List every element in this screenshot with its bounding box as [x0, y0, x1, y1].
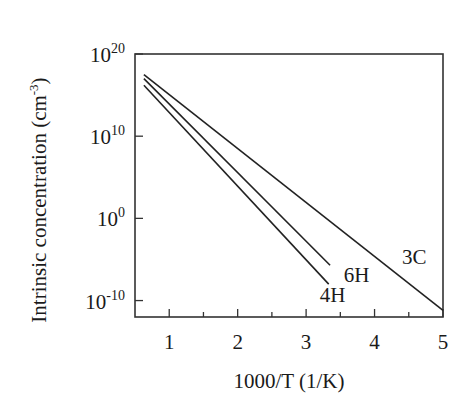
y-axis-label: Intrinsic concentration (cm-3) — [26, 77, 51, 322]
x-axis-ticks: 12345 — [164, 309, 448, 354]
label-6h: 6H — [344, 263, 370, 287]
y-tick-label: 100 — [97, 205, 125, 231]
label-3c: 3C — [402, 245, 427, 269]
x-tick-label: 5 — [438, 330, 449, 354]
plot-frame — [135, 54, 443, 317]
x-tick-label: 4 — [369, 330, 380, 354]
curve-labels: 3C6H4H — [320, 245, 427, 308]
series-4h — [144, 85, 329, 284]
x-tick-label: 2 — [232, 330, 243, 354]
y-axis-label-exponent: -3 — [26, 84, 41, 95]
series-6h — [144, 79, 330, 266]
data-series — [144, 75, 443, 311]
x-tick-label: 3 — [301, 330, 312, 354]
x-tick-label: 1 — [164, 330, 175, 354]
label-4h: 4H — [320, 283, 346, 307]
x-axis-label: 1000/T (1/K) — [233, 369, 344, 393]
y-tick-label: 1020 — [90, 41, 125, 67]
y-tick-label: 10-10 — [85, 288, 125, 314]
series-3c — [144, 75, 443, 311]
y-tick-label: 1010 — [90, 123, 125, 149]
chart: 12345 1020101010010-10 3C6H4H 1000/T (1/… — [0, 0, 465, 416]
